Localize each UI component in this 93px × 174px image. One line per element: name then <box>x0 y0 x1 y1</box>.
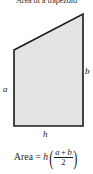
area-formula: Area = h ( a+b 2 ) <box>0 148 93 167</box>
formula-numerator-b: b <box>67 147 71 157</box>
formula-numerator: a+b <box>54 148 72 157</box>
formula-area-word: Area <box>14 152 33 163</box>
formula-height-variable: h <box>43 152 48 163</box>
trapezoid-polygon <box>14 14 83 126</box>
trapezoid-area-figure: Area of a trapezoid a b h Area = h ( a+b… <box>0 0 93 174</box>
label-base-h: h <box>43 130 48 139</box>
formula-equals-sign: = <box>35 152 40 163</box>
formula-plus-sign: + <box>61 147 66 157</box>
formula-denominator: 2 <box>61 158 65 167</box>
formula-open-paren: ( <box>49 152 53 164</box>
formula-close-paren: ) <box>73 152 77 164</box>
label-side-a: a <box>3 85 8 94</box>
formula-numerator-a: a <box>55 147 59 157</box>
formula-fraction: a+b 2 <box>54 148 72 167</box>
label-side-b: b <box>85 67 90 76</box>
